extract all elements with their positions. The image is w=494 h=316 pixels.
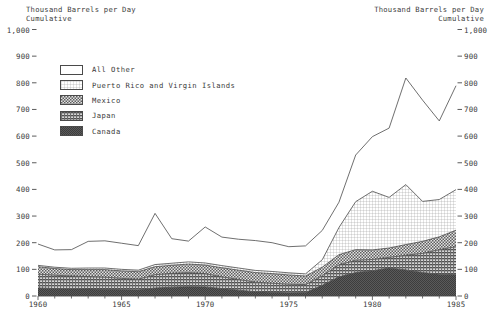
- chart-root: Thousand Barrels per DayCumulative Thous…: [0, 0, 494, 316]
- legend-item-label: Puerto Rico and Virgin Islands: [92, 81, 235, 90]
- y-axis-right-label: 800: [464, 78, 478, 87]
- x-axis-label: 1970: [196, 300, 215, 309]
- legend-item[interactable]: All Other: [60, 62, 235, 77]
- chart-legend: All OtherPuerto Rico and Virgin IslandsM…: [60, 62, 235, 139]
- legend-item-label: Japan: [92, 111, 116, 120]
- stacked-area-plot: [0, 0, 494, 316]
- legend-item[interactable]: Mexico: [60, 93, 235, 108]
- y-axis-left-label: 800: [0, 78, 30, 87]
- legend-swatch-canada: [60, 126, 83, 136]
- y-axis-left-label: 0: [0, 292, 30, 301]
- legend-swatch-puerto-rico: [60, 80, 83, 90]
- x-axis-label: 1975: [279, 300, 298, 309]
- y-axis-right-label: 100: [464, 265, 478, 274]
- y-axis-left-label: 900: [0, 52, 30, 61]
- legend-item[interactable]: Canada: [60, 124, 235, 139]
- legend-item[interactable]: Puerto Rico and Virgin Islands: [60, 77, 235, 92]
- y-axis-right-label: 300: [464, 212, 478, 221]
- y-axis-right-label: 400: [464, 185, 478, 194]
- y-axis-right-label: 500: [464, 158, 478, 167]
- legend-item[interactable]: Japan: [60, 108, 235, 123]
- y-axis-left-label: 200: [0, 238, 30, 247]
- y-axis-right-label: 1,000: [464, 25, 487, 34]
- y-axis-right-label: 200: [464, 238, 478, 247]
- y-axis-right-label: 900: [464, 52, 478, 61]
- legend-item-label: All Other: [92, 65, 135, 74]
- x-axis-label: 1985: [447, 300, 466, 309]
- x-axis-label: 1960: [29, 300, 48, 309]
- x-axis-label: 1965: [112, 300, 131, 309]
- legend-swatch-all-other: [60, 65, 83, 75]
- y-axis-left-label: 100: [0, 265, 30, 274]
- y-axis-right-label: 600: [464, 132, 478, 141]
- x-axis-label: 1980: [363, 300, 382, 309]
- legend-item-label: Canada: [92, 127, 121, 136]
- y-axis-left-label: 600: [0, 132, 30, 141]
- y-axis-left-label: 500: [0, 158, 30, 167]
- legend-swatch-mexico: [60, 95, 83, 105]
- y-axis-right-label: 700: [464, 105, 478, 114]
- y-axis-left-label: 1,000: [0, 25, 30, 34]
- legend-swatch-japan: [60, 111, 83, 121]
- y-axis-left-label: 400: [0, 185, 30, 194]
- y-axis-left-label: 700: [0, 105, 30, 114]
- legend-item-label: Mexico: [92, 96, 121, 105]
- y-axis-left-label: 300: [0, 212, 30, 221]
